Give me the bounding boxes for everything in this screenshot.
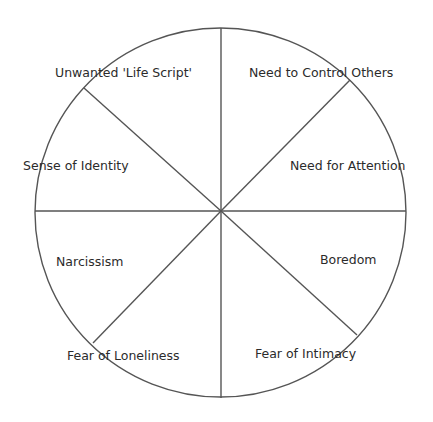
segment-label-lower-left: Narcissism bbox=[56, 256, 123, 269]
segmented-circle-diagram bbox=[0, 0, 433, 422]
segment-label-bottom-right: Fear of Intimacy bbox=[255, 348, 356, 361]
diagonal-divider-lower-right bbox=[221, 211, 357, 335]
segment-label-upper-left: Sense of Identity bbox=[23, 160, 129, 173]
diagonal-divider-upper-right bbox=[221, 80, 350, 211]
diagonal-divider-lower-left bbox=[93, 211, 221, 343]
segment-label-upper-right: Need for Attention bbox=[290, 160, 406, 173]
diagonal-divider-upper-left bbox=[84, 88, 221, 211]
segment-label-lower-right: Boredom bbox=[320, 254, 377, 267]
segment-label-top-left: Unwanted 'Life Script' bbox=[55, 67, 192, 80]
segment-label-top-right: Need to Control Others bbox=[249, 67, 393, 80]
segment-label-bottom-left: Fear of Loneliness bbox=[67, 350, 180, 363]
